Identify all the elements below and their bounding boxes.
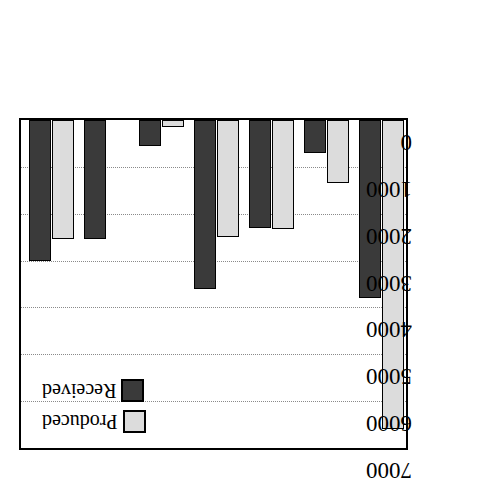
y-tick-label: 1000 — [366, 178, 412, 201]
bar-uk-produced — [327, 120, 349, 183]
bar-scand-received — [139, 120, 161, 146]
bar-europe-received — [29, 120, 51, 261]
y-tick-label: 4000 — [366, 318, 412, 341]
legend-label-received: Received — [42, 381, 116, 401]
bar-chart: Europe Other Scand. Soviet Union Fr, It,… — [0, 0, 480, 495]
bar-scand-produced — [162, 120, 184, 127]
bar-fr-it-wg-produced — [272, 120, 294, 229]
bar-other-received — [84, 120, 106, 239]
bar-soviet-union-produced — [217, 120, 239, 237]
y-tick-label: 2000 — [366, 225, 412, 248]
y-tick-label: 6000 — [366, 412, 412, 435]
gridline — [21, 354, 406, 355]
bar-europe-produced — [52, 120, 74, 239]
legend-swatch-produced — [123, 410, 146, 433]
legend-item-received: Received — [42, 379, 144, 402]
legend-item-produced: Produced — [42, 410, 146, 433]
y-tick-label: 0 — [401, 131, 413, 154]
bar-fr-it-wg-received — [249, 120, 271, 228]
y-tick-label: 7000 — [366, 459, 412, 482]
legend-swatch-received — [121, 379, 144, 402]
legend-label-produced: Produced — [42, 412, 118, 432]
y-tick-label: 3000 — [366, 272, 412, 295]
gridline — [21, 307, 406, 308]
bar-soviet-union-received — [194, 120, 216, 289]
y-tick-label: 5000 — [366, 365, 412, 388]
bar-uk-received — [304, 120, 326, 153]
